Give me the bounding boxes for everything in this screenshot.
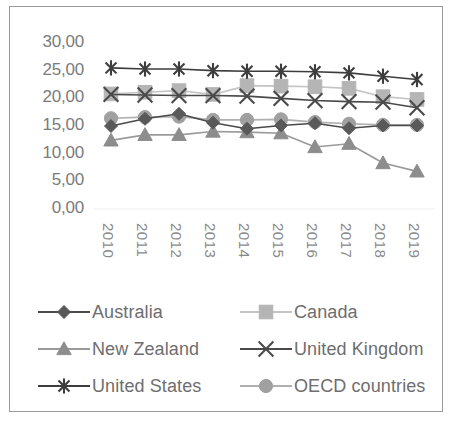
legend-symbol-triangle-icon bbox=[36, 336, 92, 362]
data-point-circle bbox=[259, 379, 272, 392]
legend-row: United StatesOECD countries bbox=[24, 369, 438, 403]
legend-item-australia[interactable]: Australia bbox=[24, 295, 230, 329]
data-point-diamond bbox=[58, 306, 71, 319]
y-axis-tick-label: 0,00 bbox=[10, 198, 84, 218]
series-line bbox=[111, 68, 417, 80]
legend-label: United States bbox=[92, 376, 201, 397]
series-australia bbox=[105, 107, 424, 135]
x-axis-tick-label: 2010 bbox=[100, 223, 117, 258]
legend-label: Canada bbox=[294, 302, 358, 323]
x-axis-tick-label: 2019 bbox=[406, 223, 423, 258]
x-axis-tick-label: 2015 bbox=[270, 223, 287, 258]
series-united-states bbox=[106, 60, 423, 87]
data-point-square bbox=[138, 85, 152, 99]
y-axis-tick-label: 10,00 bbox=[10, 143, 84, 163]
x-axis-tick-label: 2013 bbox=[202, 223, 219, 258]
legend-row: New ZealandUnited Kingdom bbox=[24, 332, 438, 366]
legend-item-canada[interactable]: Canada bbox=[230, 295, 438, 329]
y-axis-tick-label: 30,00 bbox=[10, 32, 84, 52]
chart-legend: AustraliaCanadaNew ZealandUnited Kingdom… bbox=[24, 295, 438, 407]
chart-frame: 0,005,0010,0015,0020,0025,0030,00 201020… bbox=[9, 6, 443, 412]
legend-item-united-states[interactable]: United States bbox=[24, 369, 230, 403]
x-axis-tick-label: 2012 bbox=[168, 223, 185, 258]
y-axis-tick-label: 5,00 bbox=[10, 170, 84, 190]
legend-item-new-zealand[interactable]: New Zealand bbox=[24, 332, 230, 366]
legend-item-oecd-countries[interactable]: OECD countries bbox=[230, 369, 438, 403]
plot-area: 0,005,0010,0015,0020,0025,0030,00 201020… bbox=[10, 7, 442, 297]
legend-label: Australia bbox=[92, 302, 163, 323]
data-point-square bbox=[274, 79, 288, 93]
data-point-square bbox=[259, 305, 273, 319]
x-axis-tick-label: 2017 bbox=[338, 223, 355, 258]
data-point-square bbox=[342, 82, 356, 96]
chart-container: 0,005,0010,0015,0020,0025,0030,00 201020… bbox=[10, 7, 442, 411]
x-axis-tick-label: 2011 bbox=[134, 223, 151, 257]
series-oecd-countries bbox=[104, 110, 423, 132]
series-line bbox=[111, 114, 417, 129]
x-axis-tick-label: 2016 bbox=[304, 223, 321, 258]
legend-label: OECD countries bbox=[294, 376, 425, 397]
legend-symbol-square-icon bbox=[238, 299, 294, 325]
legend-symbol-cross-icon bbox=[238, 336, 294, 362]
legend-label: New Zealand bbox=[92, 339, 199, 360]
series-line bbox=[111, 132, 417, 172]
data-point-triangle bbox=[376, 156, 390, 169]
legend-row: AustraliaCanada bbox=[24, 295, 438, 329]
data-point-triangle bbox=[342, 137, 356, 150]
legend-symbol-circle-icon bbox=[238, 373, 294, 399]
legend-item-united-kingdom[interactable]: United Kingdom bbox=[230, 332, 438, 366]
x-axis-tick-label: 2014 bbox=[236, 223, 253, 258]
y-axis-tick-label: 20,00 bbox=[10, 87, 84, 107]
series-new-zealand bbox=[104, 124, 424, 177]
x-axis-tick-label: 2018 bbox=[372, 223, 389, 258]
data-point-square bbox=[308, 80, 322, 94]
legend-label: United Kingdom bbox=[294, 339, 423, 360]
series-line bbox=[111, 94, 417, 107]
y-axis-tick-label: 25,00 bbox=[10, 60, 84, 80]
y-axis-tick-label: 15,00 bbox=[10, 115, 84, 135]
legend-symbol-diamond-icon bbox=[36, 299, 92, 325]
legend-symbol-asterisk-icon bbox=[36, 373, 92, 399]
